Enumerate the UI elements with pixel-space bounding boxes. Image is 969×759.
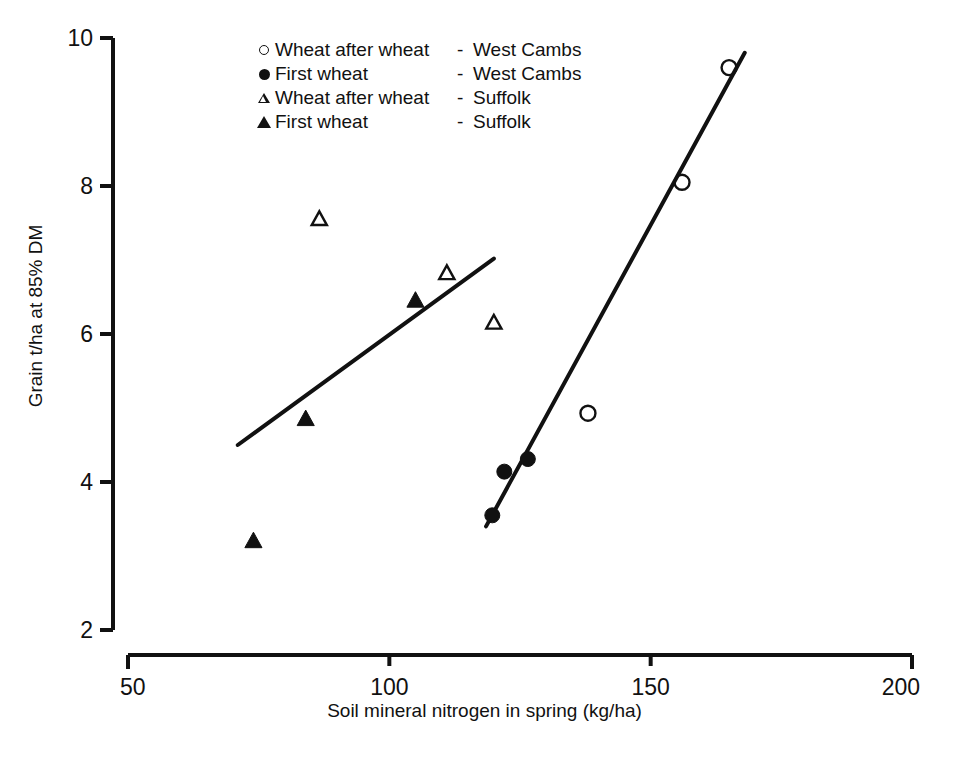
legend-dash-1: - (457, 63, 473, 85)
legend-label-0: Wheat after wheat (275, 39, 457, 61)
legend-site-0: West Cambs (473, 39, 581, 61)
data-point-3-2 (407, 292, 424, 307)
triangle-open-glyph (258, 93, 270, 103)
data-point-3-0 (245, 532, 262, 547)
y-axis-title: Grain t/ha at 85% DM (25, 206, 47, 426)
legend-label-1: First wheat (275, 63, 457, 85)
data-point-0-0 (580, 406, 595, 421)
legend-label-3: First wheat (275, 111, 457, 133)
series-1 (485, 452, 536, 523)
scatter-chart-figure: 10864250100150200 Wheat after wheat-West… (0, 0, 969, 759)
data-point-2-2 (486, 315, 501, 329)
legend-site-2: Suffolk (473, 87, 531, 109)
legend-row-0: Wheat after wheat-West Cambs (253, 38, 653, 62)
y-tick-label-2: 2 (80, 617, 93, 643)
y-tick-label-4: 4 (80, 469, 93, 495)
data-point-0-1 (675, 175, 690, 190)
x-tick-label-50: 50 (120, 674, 146, 700)
series-2 (312, 211, 502, 328)
legend-triangle-open-icon (253, 93, 275, 103)
data-point-1-1 (497, 464, 512, 479)
data-point-3-1 (297, 410, 314, 425)
y-tick-label-8: 8 (80, 173, 93, 199)
triangle-filled-glyph (257, 116, 271, 128)
data-point-2-0 (312, 211, 327, 225)
legend-dash-0: - (457, 39, 473, 61)
legend-circle-filled-icon (253, 69, 275, 80)
legend-row-2: Wheat after wheat-Suffolk (253, 86, 653, 110)
legend-triangle-filled-icon (253, 116, 275, 128)
chart-legend: Wheat after wheat-West CambsFirst wheat-… (253, 38, 653, 134)
regression-line-0 (238, 259, 494, 445)
legend-dash-2: - (457, 87, 473, 109)
data-point-1-0 (485, 508, 500, 523)
x-tick-label-100: 100 (370, 674, 408, 700)
legend-site-3: Suffolk (473, 111, 531, 133)
y-tick-label-6: 6 (80, 321, 93, 347)
legend-row-1: First wheat-West Cambs (253, 62, 653, 86)
legend-label-2: Wheat after wheat (275, 87, 457, 109)
x-tick-label-200: 200 (882, 674, 920, 700)
circle-filled-glyph (259, 69, 270, 80)
data-point-0-2 (722, 60, 737, 75)
x-tick-label-150: 150 (631, 674, 669, 700)
x-axis-title: Soil mineral nitrogen in spring (kg/ha) (0, 700, 969, 722)
circle-open-glyph (259, 45, 269, 55)
legend-circle-open-icon (253, 45, 275, 55)
data-point-1-2 (520, 452, 535, 467)
data-point-2-1 (439, 265, 454, 279)
y-tick-label-10: 10 (67, 25, 93, 51)
legend-dash-3: - (457, 111, 473, 133)
legend-site-1: West Cambs (473, 63, 581, 85)
legend-row-3: First wheat-Suffolk (253, 110, 653, 134)
